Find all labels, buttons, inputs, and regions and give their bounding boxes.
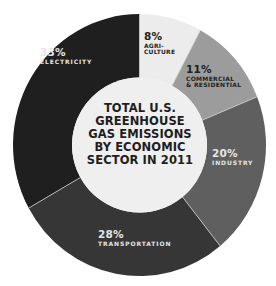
- slice-value-commercial-residential: 11%: [186, 64, 241, 75]
- slice-label-commercial-residential: 11% COMMERCIAL & RESIDENTIAL: [186, 64, 241, 89]
- slice-value-electricity: 33%: [40, 47, 92, 58]
- slice-label-agriculture: 8% AGRI- CULTURE: [144, 31, 175, 56]
- slice-label-electricity: 33% ELECTRICITY: [40, 47, 92, 65]
- title-line-5: SECTOR IN 2011: [80, 154, 200, 167]
- chart-title: TOTAL U.S. GREENHOUSE GAS EMISSIONS BY E…: [80, 102, 200, 167]
- slice-name-industry: INDUSTRY: [212, 160, 253, 167]
- slice-label-transportation: 28% TRANSPORTATION: [98, 229, 171, 247]
- slice-name-commercial-line2: & RESIDENTIAL: [186, 82, 241, 89]
- slice-name-electricity: ELECTRICITY: [40, 59, 92, 66]
- slice-name-agriculture-line2: CULTURE: [144, 49, 175, 56]
- slice-value-industry: 20%: [212, 148, 253, 159]
- slice-name-transportation: TRANSPORTATION: [98, 241, 171, 248]
- slice-value-transportation: 28%: [98, 229, 171, 240]
- slice-label-industry: 20% INDUSTRY: [212, 148, 253, 166]
- slice-value-agriculture: 8%: [144, 31, 175, 42]
